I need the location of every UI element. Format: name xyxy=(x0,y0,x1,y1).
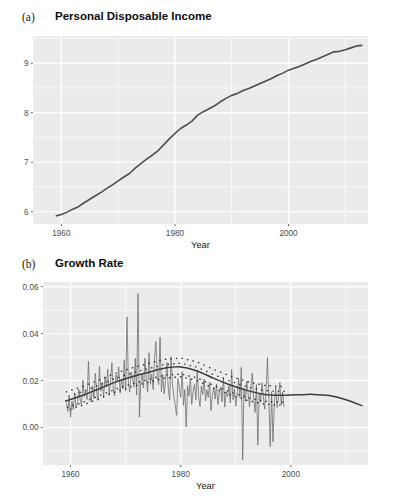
y-tick-label: 7 xyxy=(24,158,29,167)
x-tick-label: 2000 xyxy=(282,470,301,479)
x-tick-label: 1980 xyxy=(172,470,191,479)
panel-a-plot: 6789196019802000Year xyxy=(0,0,393,252)
x-axis-title: Year xyxy=(196,480,215,491)
panel-b-plot: 0.000.020.040.06196019802000Year xyxy=(0,250,393,501)
x-tick-label: 2000 xyxy=(279,229,298,238)
y-tick-label: 9 xyxy=(24,59,29,68)
y-tick-label: 8 xyxy=(24,109,29,118)
x-axis-title: Year xyxy=(191,239,210,250)
y-tick-label: 6 xyxy=(24,208,29,217)
plot-panel-background xyxy=(43,282,368,465)
figure-container: (a) Personal Disposable Income 678919601… xyxy=(0,0,393,501)
plot-panel-background xyxy=(33,36,368,224)
panel-a: (a) Personal Disposable Income 678919601… xyxy=(0,0,393,252)
y-tick-label: 0.06 xyxy=(23,283,39,292)
x-tick-label: 1960 xyxy=(52,229,71,238)
x-tick-label: 1980 xyxy=(166,229,185,238)
y-tick-label: 0.02 xyxy=(23,377,39,386)
x-tick-label: 1960 xyxy=(61,470,80,479)
panel-b: (b) Growth Rate 0.000.020.040.0619601980… xyxy=(0,250,393,501)
y-tick-label: 0.04 xyxy=(23,330,39,339)
y-tick-label: 0.00 xyxy=(23,423,39,432)
